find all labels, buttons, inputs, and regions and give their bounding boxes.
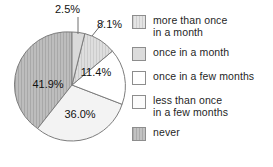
- legend-item-more-than-once-in-a-month: more than once in a month: [132, 14, 273, 38]
- pie-label-2-5-percent: 2.5%: [55, 3, 80, 15]
- legend-item-once-in-a-month: once in a month: [132, 46, 273, 61]
- dark-gray-hatched-swatch-icon: [132, 127, 146, 141]
- legend-label-once-in-a-month: once in a month: [153, 46, 229, 58]
- legend-item-once-in-a-few-months: once in a few months: [132, 70, 273, 85]
- pie-label-11-4-percent: 11.4%: [81, 66, 112, 78]
- chart-legend: more than once in a month once in a mont…: [132, 14, 273, 159]
- light-gray-hatched-swatch-icon: [132, 15, 146, 29]
- legend-label-more-than-once-in-a-month: more than once in a month: [153, 14, 227, 38]
- white-swatch-icon: [132, 71, 146, 85]
- pie-label-8-1-percent: 8.1%: [97, 18, 122, 30]
- legend-label-never: never: [153, 126, 180, 138]
- pie-label-41-9-percent: 41.9%: [32, 78, 63, 90]
- near-white-swatch-icon: [132, 95, 146, 109]
- legend-label-once-in-a-few-months: once in a few months: [153, 70, 254, 82]
- pie-label-36-0-percent: 36.0%: [64, 108, 95, 120]
- light-gray-swatch-icon: [132, 47, 146, 61]
- pie-chart-figure: 2.5% 8.1% 11.4% 36.0% 41.9% more than on…: [0, 0, 273, 167]
- legend-item-never: never: [132, 126, 273, 141]
- pie-chart-area: 2.5% 8.1% 11.4% 36.0% 41.9%: [0, 0, 140, 167]
- legend-label-less-than-once-in-a-few-months: less than once in a few months: [153, 94, 228, 118]
- legend-item-less-than-once-in-a-few-months: less than once in a few months: [132, 94, 273, 118]
- pie-chart-svg: 2.5% 8.1% 11.4% 36.0% 41.9%: [0, 0, 140, 167]
